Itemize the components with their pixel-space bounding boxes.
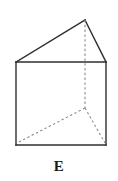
geometry-figure: E: [0, 0, 118, 181]
hidden-edge-to-bottom-left: [17, 108, 85, 143]
roof-left-slant-edge: [16, 20, 85, 62]
triangular-prism-drawing: [0, 0, 118, 181]
visible-edges-group: [16, 20, 106, 145]
figure-label: E: [0, 157, 118, 175]
roof-right-slant-edge: [85, 20, 106, 62]
hidden-edge-to-bottom-right: [85, 108, 105, 143]
hidden-edges-group: [17, 20, 105, 143]
